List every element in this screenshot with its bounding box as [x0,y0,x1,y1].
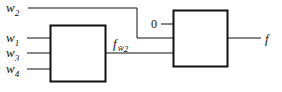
right-function-block [174,11,228,67]
multiplexer-diagram: w2 w1 w3 w4 fw̄2 0 f [0,0,282,92]
intermediate-label: fw̄2 [113,36,129,54]
output-f-label: f [265,31,271,46]
constant-zero-label: 0 [151,17,157,31]
input-w4-label: w4 [6,61,20,79]
input-w2-label: w2 [6,0,20,18]
left-function-block [51,26,106,82]
